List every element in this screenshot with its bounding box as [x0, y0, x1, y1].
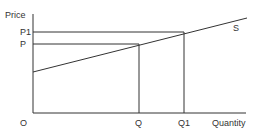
x-axis-label: Quantity	[212, 118, 246, 128]
q-label: Q	[135, 118, 142, 128]
p-label: P	[20, 39, 26, 49]
y-axis-label: Price	[5, 10, 26, 20]
origin-label: O	[20, 118, 27, 128]
q1-label: Q1	[178, 118, 190, 128]
supply-curve	[33, 18, 247, 72]
p1-label: P1	[20, 27, 31, 37]
supply-curve-label: S	[233, 23, 239, 33]
supply-diagram: Price P1 P O Q Q1 Quantity S	[0, 0, 259, 136]
